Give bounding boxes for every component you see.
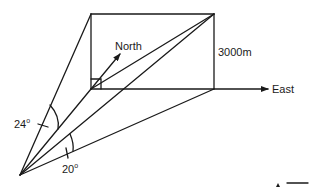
line-to-base-far	[20, 89, 214, 175]
line-to-top-near	[20, 14, 91, 175]
angle-tick-20	[66, 148, 68, 158]
east-label: East	[272, 83, 294, 95]
vertical-plane	[91, 14, 214, 89]
angle-arc-24	[50, 105, 58, 129]
elevation-diagram: East North 3000m 24o 20o	[0, 0, 310, 190]
angle-label-24: 24o	[14, 117, 30, 130]
height-label: 3000m	[218, 46, 252, 58]
sight-lines	[20, 14, 214, 175]
north-label: North	[115, 40, 142, 52]
angle-arc-20	[70, 134, 73, 151]
line-to-base-near	[20, 89, 91, 175]
north-arrow	[91, 54, 120, 89]
corner-mark-triangle	[276, 183, 280, 187]
diagonal-edge	[91, 14, 214, 89]
angle-label-20: 20o	[62, 162, 78, 175]
line-to-top-far	[20, 14, 214, 175]
